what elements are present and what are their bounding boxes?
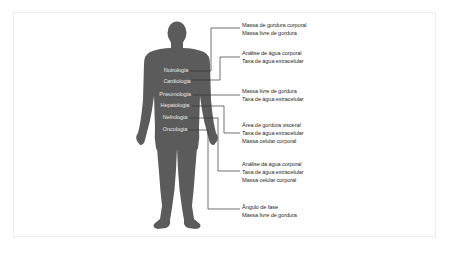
annotation-nefrologia: Análise da água corporal Taxa de água ex… <box>242 160 304 184</box>
annotation-line: Massa livre de gordura <box>242 87 304 95</box>
body-diagram <box>0 0 449 253</box>
annotation-line: Massa celular corporal <box>242 176 304 184</box>
annotation-line: Taxa de água extracelular <box>242 95 304 103</box>
annotation-pneumologia: Massa livre de gordura Taxa de água extr… <box>242 87 304 103</box>
annotation-line: Análise de água corporal <box>242 49 304 57</box>
annotation-line: Massa celular corporal <box>242 137 304 145</box>
annotation-nutrologia: Massa de gordura corporal Massa livre de… <box>242 21 306 37</box>
annotation-line: Taxa de água extracelular <box>242 168 304 176</box>
annotation-line: Área de gordura visceral <box>242 121 304 129</box>
annotation-line: Análise da água corporal <box>242 160 304 168</box>
annotation-line: Massa de gordura corporal <box>242 21 306 29</box>
label-oncologia: Oncologia <box>163 126 187 132</box>
label-hepatologia: Hepatologia <box>161 102 190 108</box>
label-nefrologia: Nefrologia <box>163 114 188 120</box>
annotation-line: Taxa de água extracelular <box>242 57 304 65</box>
annotation-hepatologia: Área de gordura visceral Taxa de água ex… <box>242 121 304 145</box>
annotation-line: Ângulo de fase <box>242 203 297 211</box>
annotation-cardiologia: Análise de água corporal Taxa de água ex… <box>242 49 304 65</box>
annotation-oncologia: Ângulo de fase Massa livre de gordura <box>242 203 297 219</box>
label-pneumologia: Pneumologia <box>159 91 191 97</box>
label-cardiologia: Cardiologia <box>163 78 190 84</box>
annotation-line: Taxa de água extracelular <box>242 129 304 137</box>
annotation-line: Massa livre de gordura <box>242 29 306 37</box>
label-nutrologia: Nutrologia <box>164 67 189 73</box>
annotation-line: Massa livre de gordura <box>242 211 297 219</box>
